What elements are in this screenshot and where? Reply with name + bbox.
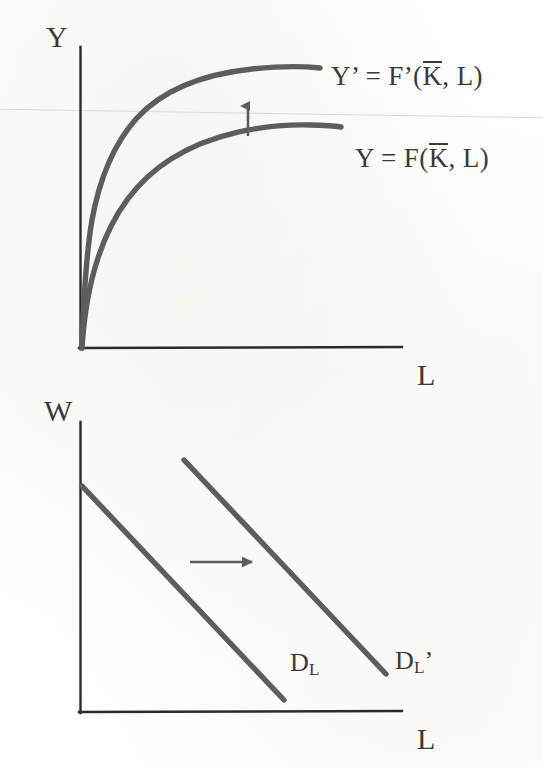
lower-production-curve-label: Y = F(K, L) <box>355 144 489 172</box>
lower-curve-label-lead: Y = F( <box>355 143 429 173</box>
k-bar-symbol: K <box>429 144 449 172</box>
background-bleed-text: bushels of corn per hour, or is long as … <box>0 0 543 769</box>
figure-page: bushels of corn per hour, or is long as … <box>0 0 543 769</box>
demand-label-subscript: L <box>309 660 319 679</box>
upper-curve-label-tail: , L) <box>442 61 483 91</box>
lower-production-curve <box>82 125 341 348</box>
bottom-chart-group <box>79 422 402 713</box>
bottom-chart-y-axis-label: W <box>44 396 73 426</box>
k-bar-symbol: K <box>422 62 442 90</box>
paper-texture <box>0 0 543 769</box>
upper-production-curve <box>82 67 320 348</box>
original-labor-demand-curve <box>82 486 284 700</box>
bottom-chart-x-axis <box>79 711 402 712</box>
shifted-labor-demand-curve <box>184 460 386 674</box>
demand-label-prime: ’ <box>425 646 434 675</box>
shifted-labor-demand-label: DL’ <box>395 648 433 676</box>
lower-curve-label-tail: , L) <box>449 143 490 173</box>
scan-rule <box>0 109 543 119</box>
demand-label-subscript: L <box>414 658 424 677</box>
top-chart-group <box>79 47 402 349</box>
upper-curve-label-lead: Y’ = F’( <box>331 61 422 91</box>
figure-vector-layer <box>0 0 543 769</box>
top-chart-x-axis-label: L <box>417 360 436 390</box>
top-chart-y-axis-label: Y <box>46 22 68 52</box>
demand-label-base: D <box>290 648 309 677</box>
original-labor-demand-label: DL <box>290 650 320 678</box>
top-chart-x-axis <box>79 347 402 348</box>
upper-production-curve-label: Y’ = F’(K, L) <box>331 62 483 90</box>
bottom-chart-x-axis-label: L <box>417 724 436 754</box>
demand-label-base: D <box>395 646 414 675</box>
